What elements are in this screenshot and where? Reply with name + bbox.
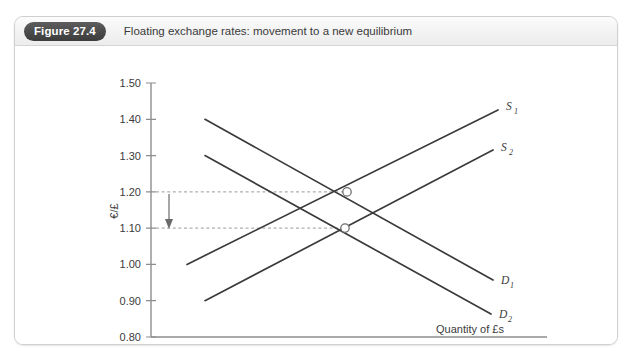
supply-demand-chart: 1.50 1.40 1.30 1.20 1.10 1.00 0.90 0.80 … [15,46,617,344]
figure-number-badge: Figure 27.4 [24,22,106,41]
x-axis-title: Quantity of £s [436,323,504,335]
curve-label-s1-text: S [506,100,512,112]
supply-curve-s2 [205,150,493,301]
curve-label-d2-text: D [498,308,508,320]
curve-label-d1-sub: 1 [510,281,514,290]
figure-header: Figure 27.4 Floating exchange rates: mov… [15,17,617,46]
curve-label-d1: D 1 [500,274,514,290]
y-tick-label: 0.80 [120,331,141,343]
curve-label-s1-sub: 1 [514,107,518,116]
y-tick-label: 1.00 [120,258,141,270]
origin-label: 0 [152,343,158,344]
curve-label-s2: S 2 [501,141,513,157]
y-tick-label: 0.90 [120,295,141,307]
y-tick-label: 1.50 [120,77,141,89]
curve-label-d1-text: D [500,274,510,286]
y-tick-label: 1.30 [120,150,141,162]
y-tick-label: 1.40 [120,113,141,125]
supply-curve-s1 [187,110,498,264]
depreciation-arrow-head [165,219,173,229]
curve-label-d2: D 2 [498,308,512,324]
curve-label-d2-sub: 2 [508,315,512,324]
new-equilibrium-point [341,224,349,232]
y-tick-label: 1.10 [120,222,141,234]
initial-equilibrium-point [343,188,351,196]
y-axis-title: €/£ [108,203,120,218]
y-axis-tick-labels: 1.50 1.40 1.30 1.20 1.10 1.00 0.90 0.80 [120,77,141,343]
demand-curve-d1 [205,119,493,280]
curve-label-s1: S 1 [506,100,518,116]
curve-label-s2-text: S [501,141,507,153]
curve-label-s2-sub: 2 [509,148,513,157]
figure-caption: Floating exchange rates: movement to a n… [124,25,412,37]
y-tick-label: 1.20 [120,186,141,198]
chart-plot-area: 1.50 1.40 1.30 1.20 1.10 1.00 0.90 0.80 … [15,46,617,344]
figure-card: Figure 27.4 Floating exchange rates: mov… [14,16,618,345]
